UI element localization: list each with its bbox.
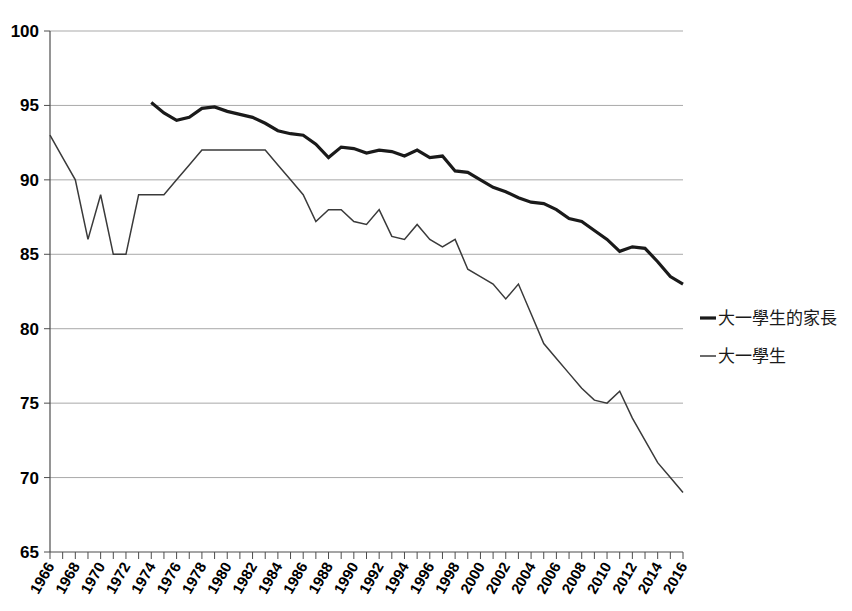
y-tick-label-65: 65 [20, 543, 39, 562]
y-tick-label-70: 70 [20, 469, 39, 488]
y-tick-label-80: 80 [20, 320, 39, 339]
series-line-freshmen [50, 135, 683, 492]
axes [50, 31, 683, 552]
y-tick-label-95: 95 [20, 96, 39, 115]
x-tick-label-1984: 1984 [254, 558, 286, 596]
y-tick-label-90: 90 [20, 171, 39, 190]
y-axis-tick-labels: 65707580859095100 [11, 22, 39, 562]
x-tick-label-2006: 2006 [533, 559, 564, 596]
x-tick-label-1988: 1988 [305, 559, 336, 596]
x-tick-label-2012: 2012 [609, 559, 640, 596]
x-tick-label-2000: 2000 [457, 559, 488, 596]
x-tick-label-2010: 2010 [583, 559, 614, 596]
x-tick-label-1990: 1990 [330, 559, 361, 596]
axis-ticks [44, 31, 683, 559]
x-tick-label-1980: 1980 [203, 559, 234, 596]
legend: 大一學生的家長大一學生 [700, 309, 837, 366]
x-axis-tick-labels: 1966196819701972197419761978198019821984… [26, 558, 690, 596]
legend-label-freshmen: 大一學生 [718, 347, 786, 366]
x-tick-label-1976: 1976 [153, 559, 184, 596]
data-series [50, 102, 683, 492]
x-tick-label-1992: 1992 [355, 559, 386, 596]
x-tick-label-1978: 1978 [178, 559, 209, 596]
x-tick-label-2002: 2002 [482, 559, 513, 596]
x-tick-label-2014: 2014 [634, 558, 666, 596]
gridlines [50, 31, 683, 478]
x-tick-label-1998: 1998 [431, 559, 462, 596]
x-tick-label-2004: 2004 [507, 558, 539, 596]
chart-container: 65707580859095100 1966196819701972197419… [0, 0, 852, 611]
x-tick-label-1970: 1970 [77, 559, 108, 596]
x-tick-label-1972: 1972 [102, 559, 133, 596]
x-tick-label-1994: 1994 [381, 558, 413, 596]
y-tick-label-100: 100 [11, 22, 39, 41]
x-tick-label-1974: 1974 [127, 558, 159, 596]
x-tick-label-1996: 1996 [406, 559, 437, 596]
x-tick-label-2008: 2008 [558, 559, 589, 596]
x-tick-label-1968: 1968 [52, 559, 83, 596]
legend-label-parents: 大一學生的家長 [718, 309, 837, 328]
x-tick-label-1982: 1982 [229, 559, 260, 596]
x-tick-label-1986: 1986 [279, 559, 310, 596]
x-tick-label-1966: 1966 [26, 559, 57, 596]
x-tick-label-2016: 2016 [659, 559, 690, 596]
y-tick-label-85: 85 [20, 245, 39, 264]
y-tick-label-75: 75 [20, 394, 39, 413]
series-line-parents [151, 102, 683, 284]
line-chart: 65707580859095100 1966196819701972197419… [0, 0, 852, 611]
